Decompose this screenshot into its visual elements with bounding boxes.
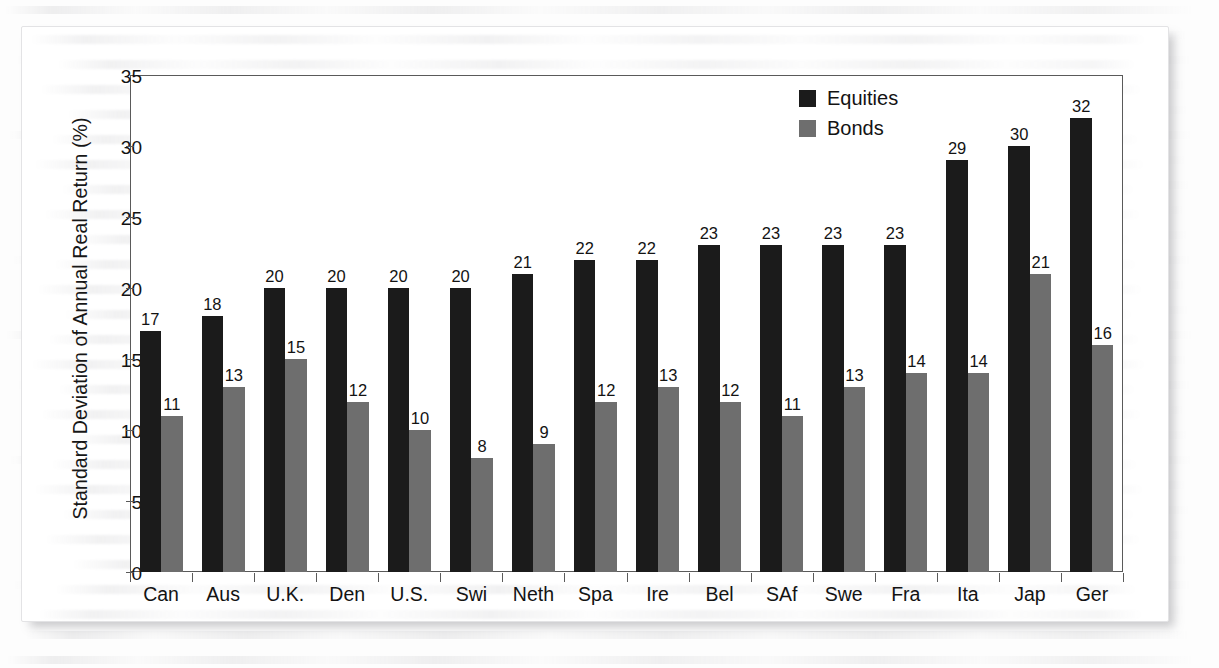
- legend-label: Bonds: [827, 117, 884, 140]
- bar-group: 2012: [326, 75, 369, 572]
- bar-equities-can: [140, 331, 162, 572]
- x-axis-tick-mark: [937, 573, 938, 582]
- bar-equities-spa: [574, 260, 596, 572]
- bar-bonds-aus: [223, 387, 245, 572]
- legend-label: Equities: [827, 87, 898, 110]
- bar-value-label: 13: [211, 367, 257, 384]
- bar-equities-ire: [636, 260, 658, 572]
- bar-equities-aus: [202, 316, 224, 572]
- bleed-text-row: [7, 656, 1194, 664]
- bar-value-label: 23: [686, 225, 732, 242]
- bar-bonds-ger: [1092, 345, 1114, 572]
- bar-bonds-can: [161, 416, 183, 572]
- bar-group: 1813: [202, 75, 245, 572]
- bar-bonds-fra: [906, 373, 928, 572]
- x-axis-tick-mark: [999, 573, 1000, 582]
- x-axis-tick-mark: [130, 573, 131, 582]
- x-axis-tick-mark: [1061, 573, 1062, 582]
- bar-value-label: 23: [810, 225, 856, 242]
- x-axis-tick-mark: [627, 573, 628, 582]
- bar-equities-fra: [884, 245, 906, 572]
- bar-group: 2312: [698, 75, 741, 572]
- bar-bonds-jap: [1030, 274, 1052, 572]
- bar-value-label: 20: [438, 268, 484, 285]
- bar-group: 1711: [140, 75, 183, 572]
- bar-value-label: 21: [1018, 254, 1064, 271]
- chart-legend: EquitiesBonds: [799, 83, 979, 143]
- bar-value-label: 18: [189, 296, 235, 313]
- bar-value-label: 9: [521, 424, 567, 441]
- bar-value-label: 20: [251, 268, 297, 285]
- bars-layer: 1711181320152012201020821922122213231223…: [130, 75, 1123, 572]
- figure-card: Standard Deviation of Annual Real Return…: [21, 26, 1169, 622]
- bar-group: 2010: [388, 75, 431, 572]
- x-axis-labels: CanAusU.K.DenU.S.SwiNethSpaIreBelSAfSweF…: [130, 583, 1123, 617]
- bleed-text-row: [5, 6, 1194, 14]
- bar-value-label: 22: [624, 240, 670, 257]
- bar-value-label: 12: [707, 382, 753, 399]
- scanned-page-background: Standard Deviation of Annual Real Return…: [0, 0, 1219, 668]
- bar-equities-jap: [1008, 146, 1030, 572]
- bar-group: 2311: [760, 75, 803, 572]
- x-axis-label-ger: Ger: [1047, 583, 1137, 606]
- x-axis-tick-mark: [813, 573, 814, 582]
- bar-value-label: 23: [748, 225, 794, 242]
- bar-value-label: 12: [583, 382, 629, 399]
- bar-value-label: 16: [1080, 325, 1126, 342]
- bar-value-label: 30: [996, 126, 1042, 143]
- x-axis-tick-mark: [192, 573, 193, 582]
- bar-value-label: 13: [645, 367, 691, 384]
- bar-value-label: 17: [127, 311, 173, 328]
- x-axis-tick-mark: [875, 573, 876, 582]
- bar-equities-bel: [698, 245, 720, 572]
- bar-value-label: 13: [831, 367, 877, 384]
- bar-value-label: 12: [335, 382, 381, 399]
- x-axis-tick-mark: [378, 573, 379, 582]
- bar-value-label: 11: [769, 396, 815, 413]
- bar-group: 3021: [1008, 75, 1051, 572]
- bar-value-label: 10: [397, 410, 443, 427]
- bar-equities-swi: [450, 288, 472, 572]
- x-axis-tick-mark: [502, 573, 503, 582]
- bar-group: 2313: [822, 75, 865, 572]
- bar-bonds-saf: [782, 416, 804, 572]
- bar-bonds-ita: [968, 373, 990, 572]
- legend-swatch-equities: [799, 90, 816, 107]
- legend-swatch-bonds: [799, 120, 816, 137]
- bar-group: 219: [512, 75, 555, 572]
- bar-value-label: 11: [149, 396, 195, 413]
- bar-equities-den: [326, 288, 348, 572]
- bar-bonds-den: [347, 402, 369, 572]
- bar-value-label: 15: [273, 339, 319, 356]
- bar-value-label: 21: [500, 254, 546, 271]
- bar-bonds-swi: [471, 458, 493, 572]
- bar-group: 2213: [636, 75, 679, 572]
- bar-equities-swe: [822, 245, 844, 572]
- bar-group: 2314: [884, 75, 927, 572]
- bar-value-label: 20: [376, 268, 422, 285]
- bar-equities-us: [388, 288, 410, 572]
- bar-value-label: 8: [459, 438, 505, 455]
- bar-bonds-swe: [844, 387, 866, 572]
- bar-group: 2015: [264, 75, 307, 572]
- bar-value-label: 22: [562, 240, 608, 257]
- bar-equities-uk: [264, 288, 286, 572]
- bar-value-label: 14: [894, 353, 940, 370]
- x-axis-tick-mark: [689, 573, 690, 582]
- x-axis-tick-mark: [564, 573, 565, 582]
- x-axis-tick-mark: [316, 573, 317, 582]
- bar-chart: Standard Deviation of Annual Real Return…: [22, 27, 1168, 621]
- bar-value-label: 14: [956, 353, 1002, 370]
- legend-item-equities: Equities: [799, 83, 979, 113]
- bar-group: 208: [450, 75, 493, 572]
- bar-equities-neth: [512, 274, 534, 572]
- bar-group: 2212: [574, 75, 617, 572]
- x-axis-tick-mark: [1123, 573, 1124, 582]
- bar-value-label: 23: [872, 225, 918, 242]
- bar-bonds-uk: [285, 359, 307, 572]
- bar-equities-ger: [1070, 118, 1092, 572]
- x-axis-tick-mark: [751, 573, 752, 582]
- bleed-text-row: [26, 631, 1190, 639]
- bar-bonds-spa: [595, 402, 617, 572]
- x-axis-tick-mark: [440, 573, 441, 582]
